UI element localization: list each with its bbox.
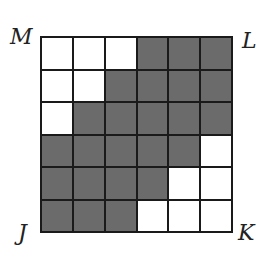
shaded-cell bbox=[106, 201, 136, 232]
shaded-cell bbox=[106, 168, 136, 199]
shaded-cell bbox=[106, 103, 136, 134]
shaded-cell bbox=[106, 136, 136, 167]
shaded-cell bbox=[138, 71, 168, 102]
shaded-cell bbox=[138, 38, 168, 69]
unshaded-cell bbox=[201, 201, 231, 232]
unshaded-cell bbox=[138, 201, 168, 232]
label-j: J bbox=[18, 222, 27, 244]
shaded-cell bbox=[138, 136, 168, 167]
unshaded-cell bbox=[201, 136, 231, 167]
label-l: L bbox=[242, 30, 257, 52]
shaded-cell bbox=[74, 201, 104, 232]
shaded-cell bbox=[138, 103, 168, 134]
label-m: M bbox=[10, 26, 33, 48]
shaded-cell bbox=[169, 38, 199, 69]
unshaded-cell bbox=[42, 71, 72, 102]
shaded-cell bbox=[74, 136, 104, 167]
shaded-cell bbox=[106, 71, 136, 102]
unshaded-cell bbox=[169, 168, 199, 199]
shaded-cell bbox=[42, 168, 72, 199]
shaded-cell bbox=[169, 71, 199, 102]
shaded-cell bbox=[42, 201, 72, 232]
shaded-cell bbox=[201, 38, 231, 69]
unshaded-cell bbox=[74, 38, 104, 69]
label-k: K bbox=[238, 222, 254, 244]
shaded-cell bbox=[169, 103, 199, 134]
unshaded-cell bbox=[106, 38, 136, 69]
shaded-cell bbox=[74, 168, 104, 199]
shaded-cell bbox=[201, 71, 231, 102]
shaded-cell bbox=[138, 168, 168, 199]
unshaded-cell bbox=[201, 168, 231, 199]
shaded-cell bbox=[74, 103, 104, 134]
shaded-square-grid bbox=[40, 36, 233, 233]
shaded-cell bbox=[201, 103, 231, 134]
shaded-cell bbox=[169, 136, 199, 167]
shaded-cell bbox=[42, 136, 72, 167]
unshaded-cell bbox=[169, 201, 199, 232]
unshaded-cell bbox=[42, 103, 72, 134]
unshaded-cell bbox=[74, 71, 104, 102]
unshaded-cell bbox=[42, 38, 72, 69]
